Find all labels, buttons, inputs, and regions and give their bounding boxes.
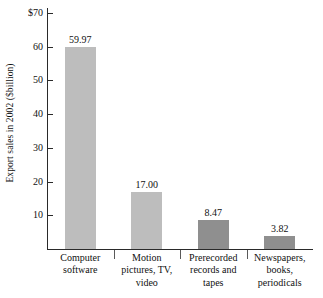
bar-value-label: 17.00 xyxy=(136,179,159,190)
y-tick: 40 xyxy=(47,114,53,115)
y-tick-label: 60 xyxy=(33,40,43,53)
bar: 3.82 xyxy=(264,236,295,249)
bar: 59.97 xyxy=(65,47,96,249)
category-label-line: video xyxy=(114,277,181,289)
y-tick: 30 xyxy=(47,148,53,149)
y-tick-mark xyxy=(48,13,53,14)
bar-value-label: 59.97 xyxy=(69,34,92,45)
y-tick-label: 20 xyxy=(33,175,43,188)
y-tick: $70 xyxy=(47,13,53,14)
category-label-line: Computer xyxy=(47,252,114,264)
category-label-line: tapes xyxy=(180,277,247,289)
y-tick: 20 xyxy=(47,182,53,183)
y-tick-label: 40 xyxy=(33,107,43,120)
y-tick-mark xyxy=(48,47,53,48)
y-tick: 10 xyxy=(47,215,53,216)
category-label-line: software xyxy=(47,264,114,276)
y-tick-mark xyxy=(48,80,53,81)
category-label: Motionpictures, TV,video xyxy=(114,252,181,289)
y-tick: 60 xyxy=(47,47,53,48)
bar-value-label: 8.47 xyxy=(205,207,223,218)
category-label: Computersoftware xyxy=(47,252,114,277)
y-tick-mark xyxy=(48,215,53,216)
y-tick-mark xyxy=(48,148,53,149)
category-label-line: periodicals xyxy=(247,277,314,289)
y-tick-label: 50 xyxy=(33,73,43,86)
y-tick-label: 10 xyxy=(33,208,43,221)
category-label-line: Newspapers, xyxy=(247,252,314,264)
category-label-line: pictures, TV, xyxy=(114,264,181,276)
category-label-line: books, xyxy=(247,264,314,276)
y-axis-line xyxy=(47,8,48,250)
y-axis-title: Export sales in 2002 ($billion) xyxy=(0,0,20,246)
y-tick-mark xyxy=(48,182,53,183)
category-label-line: Prerecorded xyxy=(180,252,247,264)
category-label-line: records and xyxy=(180,264,247,276)
category-label: Newspapers,books,periodicals xyxy=(247,252,314,289)
bar: 17.00 xyxy=(131,192,162,249)
y-tick-mark xyxy=(48,114,53,115)
y-axis-title-text: Export sales in 2002 ($billion) xyxy=(5,63,15,182)
chart-figure: Export sales in 2002 ($billion) 10203040… xyxy=(0,0,323,298)
category-label: Prerecordedrecords andtapes xyxy=(180,252,247,289)
category-label-line: Motion xyxy=(114,252,181,264)
bar: 8.47 xyxy=(198,220,229,249)
y-tick-label: $70 xyxy=(28,6,43,19)
bar-value-label: 3.82 xyxy=(271,223,289,234)
y-tick-label: 30 xyxy=(33,141,43,154)
y-tick: 50 xyxy=(47,80,53,81)
plot-area: 102030405060$70 59.9717.008.473.82 xyxy=(47,8,313,250)
